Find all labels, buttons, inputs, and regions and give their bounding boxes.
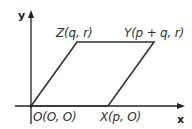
x-axis-arrow-icon [177, 103, 185, 109]
y-axis-arrow-icon [28, 10, 34, 18]
diagram-canvas [0, 0, 192, 129]
vertex-label-Z: Z(q, r) [56, 27, 92, 39]
vertex-label-O: O(O, O) [33, 111, 76, 123]
parallelogram-diagram: y x O(O, O) X(p, O) Y(p + q, r) Z(q, r) [0, 0, 192, 129]
y-axis-label: y [18, 10, 25, 22]
x-axis-label: x [177, 114, 184, 126]
origin-point [29, 104, 32, 107]
vertex-label-X: X(p, O) [100, 111, 141, 123]
vertex-label-Y: Y(p + q, r) [124, 27, 184, 39]
parallelogram-OXYZ [31, 42, 154, 106]
